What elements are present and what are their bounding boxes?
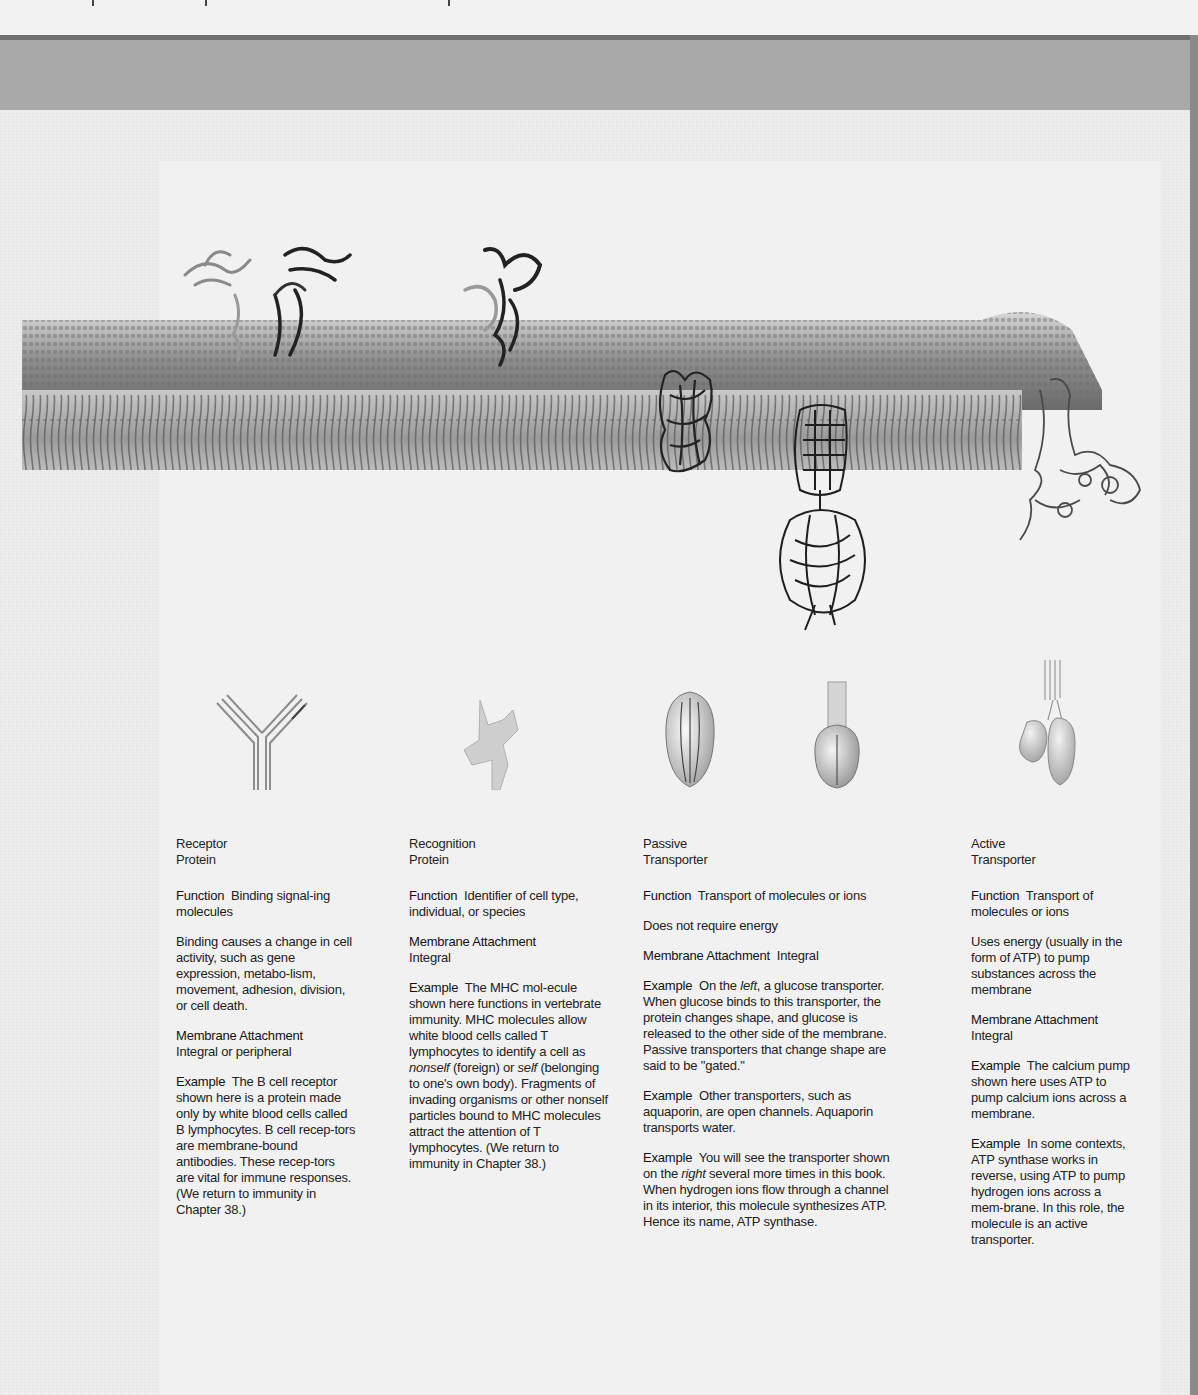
example-paragraph: Example The calcium pump shown here uses… [971, 1058, 1136, 1122]
example-text: The B cell receptor shown here is a prot… [176, 1074, 355, 1217]
active-transporter-calcium-pump-structure [1010, 370, 1160, 550]
attachment-label: Membrane Attachment [643, 948, 770, 963]
passive-transporter-glucose-structure [645, 365, 735, 480]
example-paragraph: Example Other transporters, such as aqua… [643, 1088, 893, 1136]
attachment-paragraph: Membrane Attachment Integral [643, 948, 893, 964]
passive-transporter-atp-synthase-structure [770, 400, 870, 635]
example-text: (foreign) or [450, 1060, 518, 1075]
column-title: Recognition Protein [409, 836, 609, 868]
column-title: Passive Transporter [643, 836, 893, 868]
function-label: Function [971, 888, 1019, 903]
column-title: Receptor Protein [176, 836, 356, 868]
attachment-label: Membrane Attachment [176, 1028, 303, 1043]
example-label: Example [409, 980, 458, 995]
example-label: Example [643, 1088, 692, 1103]
note-text: Binding causes a change in cell activity… [176, 934, 356, 1014]
column-recognition-protein: Recognition Protein Function Identifier … [409, 836, 609, 1186]
header-band [0, 35, 1198, 110]
column-passive-transporter: Passive Transporter Function Transport o… [643, 836, 893, 1244]
title-line: Transporter [643, 852, 893, 868]
example-text: In some contexts, ATP synthase works in … [971, 1136, 1126, 1247]
emphasis-nonself: nonself [409, 1060, 450, 1075]
title-line: Passive [643, 836, 893, 852]
attachment-text: Integral [777, 948, 819, 963]
receptor-protein-structure [175, 235, 355, 365]
function-label: Function [176, 888, 224, 903]
attachment-paragraph: Membrane AttachmentIntegral [409, 934, 609, 966]
note-text: Uses energy (usually in the form of ATP)… [971, 934, 1136, 998]
title-line: Receptor [176, 836, 356, 852]
emphasis-left: left [740, 978, 757, 993]
function-paragraph: Function Identifier of cell type, indivi… [409, 888, 609, 920]
example-label: Example [643, 1150, 692, 1165]
emphasis-right: right [681, 1166, 705, 1181]
attachment-label: Membrane Attachment [971, 1012, 1098, 1027]
right-page-rule [1190, 35, 1198, 1395]
emphasis-self: self [518, 1060, 537, 1075]
function-paragraph: Function Transport of molecules or ions [643, 888, 871, 904]
title-line: Protein [176, 852, 356, 868]
antibody-y-icon [212, 693, 312, 790]
title-line: Recognition [409, 836, 609, 852]
attachment-label: Membrane Attachment [409, 934, 536, 949]
title-line: Protein [409, 852, 609, 868]
attachment-paragraph: Membrane AttachmentIntegral [971, 1012, 1136, 1044]
mhc-molecule-icon [460, 695, 530, 790]
attachment-text: Integral [409, 950, 451, 965]
column-title: Active Transporter [971, 836, 1136, 868]
top-margin [0, 0, 1198, 35]
column-receptor-protein: Receptor Protein Function Binding signal… [176, 836, 356, 1232]
function-paragraph: Function Transport of molecules or ions [971, 888, 1136, 920]
example-label: Example [971, 1136, 1020, 1151]
function-label: Function [643, 888, 691, 903]
calcium-pump-icon [1015, 660, 1085, 790]
example-paragraph: Example The B cell receptor shown here i… [176, 1074, 356, 1218]
example-paragraph: Example You will see the transporter sho… [643, 1150, 893, 1230]
glucose-transporter-icon [662, 690, 718, 790]
example-text: (belonging to one's own body). Fragments… [409, 1060, 608, 1171]
example-label: Example [971, 1058, 1020, 1073]
function-text: Transport of molecules or ions [698, 888, 866, 903]
attachment-text: Integral or peripheral [176, 1044, 292, 1059]
attachment-text: Integral [971, 1028, 1013, 1043]
example-label: Example [643, 978, 692, 993]
column-active-transporter: Active Transporter Function Transport of… [971, 836, 1136, 1262]
example-paragraph: Example The MHC mol-ecule shown here fun… [409, 980, 609, 1172]
example-label: Example [176, 1074, 225, 1089]
title-line: Transporter [971, 852, 1136, 868]
function-label: Function [409, 888, 457, 903]
atp-synthase-icon [812, 680, 862, 790]
note-text: Does not require energy [643, 918, 893, 934]
example-paragraph: Example On the left, a glucose transport… [643, 978, 893, 1074]
recognition-protein-structure [455, 240, 555, 370]
example-text: On the [699, 978, 740, 993]
function-paragraph: Function Binding signal-ing molecules [176, 888, 356, 920]
title-line: Active [971, 836, 1136, 852]
example-paragraph: Example In some contexts, ATP synthase w… [971, 1136, 1136, 1248]
attachment-paragraph: Membrane AttachmentIntegral or periphera… [176, 1028, 356, 1060]
